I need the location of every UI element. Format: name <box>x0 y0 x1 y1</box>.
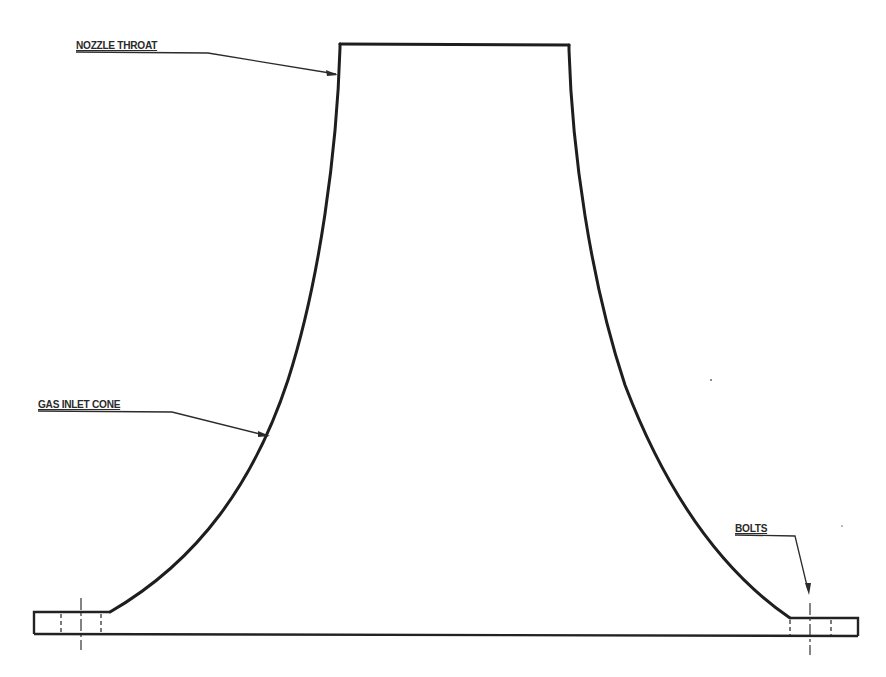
nozzle-drawing <box>0 0 886 677</box>
arrowhead-icon <box>805 583 811 595</box>
scan-speck <box>710 379 712 381</box>
label-gas-inlet-cone: GAS INLET CONE <box>38 398 120 410</box>
throat-top-edge <box>340 44 569 45</box>
base-line <box>34 634 858 636</box>
leader-line <box>76 52 336 74</box>
arrowhead-icon <box>326 70 338 76</box>
flange-right-outline <box>790 618 858 636</box>
scan-speck <box>841 525 843 527</box>
leader-bolts <box>735 535 811 595</box>
flange-left <box>34 598 110 650</box>
label-nozzle-throat: NOZZLE THROAT <box>76 39 157 51</box>
label-bolts: BOLTS <box>735 522 767 534</box>
left-cone-wall <box>110 44 340 612</box>
flange-left-outline <box>34 612 110 634</box>
leader-gas-inlet-cone <box>38 411 270 437</box>
flange-right <box>790 603 858 655</box>
leader-nozzle-throat <box>76 52 338 76</box>
leader-line <box>38 411 268 436</box>
